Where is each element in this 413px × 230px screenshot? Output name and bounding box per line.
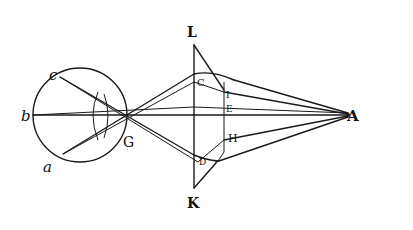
label-H: H xyxy=(228,132,238,145)
optics-diagram: c b a G L K C I E H D A xyxy=(0,0,413,230)
label-K: K xyxy=(187,195,200,211)
label-c: c xyxy=(49,66,58,84)
ray-H-to-A xyxy=(224,116,348,140)
label-G: G xyxy=(123,134,134,150)
label-C: C xyxy=(197,77,205,88)
label-b: b xyxy=(21,107,31,125)
label-D: D xyxy=(199,157,206,167)
label-A: A xyxy=(346,107,359,125)
label-E: E xyxy=(226,104,233,114)
label-L: L xyxy=(187,24,197,40)
label-I: I xyxy=(226,90,230,100)
label-a: a xyxy=(43,158,52,176)
